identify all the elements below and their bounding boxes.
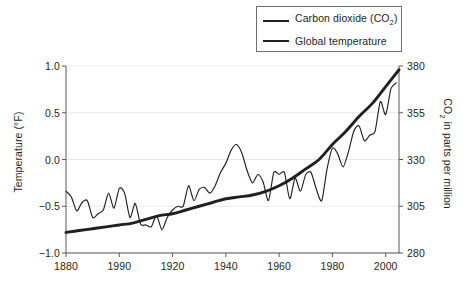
axis-ticks [62,66,403,257]
plot-area [0,0,464,285]
series-line-global-temperature [66,83,396,230]
climate-chart: Carbon dioxide (CO2) Global temperature … [0,0,464,285]
